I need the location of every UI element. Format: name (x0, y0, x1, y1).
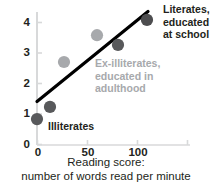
data-point (141, 14, 153, 26)
annotation-literates-line2: educated (163, 16, 210, 29)
annotation-ex-illiterates-line3: adulthood (95, 82, 160, 95)
data-point (91, 29, 103, 41)
annotation-ex-illiterates: Ex-illiterates, educated in adulthood (95, 57, 160, 95)
annotation-literates: Literates, educated at school (163, 3, 210, 41)
data-point (31, 113, 43, 125)
scatter-plot-figure: 4 3 2 1 0 0 50 100 Literates, educated a… (0, 0, 212, 184)
y-tick-label-3: 3 (14, 47, 30, 59)
data-point (44, 101, 56, 113)
y-tick-label-1: 1 (14, 108, 30, 120)
annotation-illiterates-line1: Illiterates (48, 120, 94, 133)
annotation-ex-illiterates-line1: Ex-illiterates, (95, 57, 160, 70)
data-point (58, 56, 70, 68)
annotation-literates-line3: at school (163, 28, 210, 41)
annotation-literates-line1: Literates, (163, 3, 210, 16)
y-tick-label-2: 2 (14, 78, 30, 90)
data-point (112, 39, 124, 51)
y-tick-label-4: 4 (14, 17, 30, 29)
annotation-ex-illiterates-line2: educated in (95, 70, 160, 83)
x-axis-caption: Reading score: number of words read per … (0, 155, 212, 183)
annotation-illiterates: Illiterates (48, 120, 94, 133)
caption-line-1: Reading score: (0, 155, 212, 169)
plot-area: 4 3 2 1 0 0 50 100 Literates, educated a… (0, 0, 212, 152)
caption-line-2: number of words read per minute (0, 169, 212, 183)
